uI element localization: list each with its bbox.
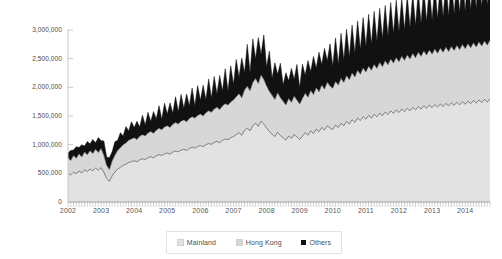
x-axis-tick-label: 2011 (350, 207, 382, 214)
x-axis-tick-label: 2003 (85, 207, 117, 214)
x-axis-tick-label: 2006 (184, 207, 216, 214)
chart-root: 3,000,0002,500,0002,000,0001,500,0001,00… (0, 0, 502, 259)
x-axis-tick-label: 2013 (416, 207, 448, 214)
x-axis-tick-label: 2009 (284, 207, 316, 214)
legend-swatch-icon (301, 240, 306, 245)
x-axis-tick-label: 2007 (217, 207, 249, 214)
legend-swatch-icon (177, 239, 184, 246)
legend-swatch-icon (236, 239, 243, 246)
y-axis-tick-label: 1,500,000 (6, 112, 62, 119)
y-axis-tick-label: 500,000 (6, 169, 62, 176)
legend-item-others[interactable]: Others (301, 239, 331, 246)
x-axis-tick-label: 2010 (317, 207, 349, 214)
legend-item-mainland[interactable]: Mainland (177, 239, 216, 246)
x-axis-tick-label: 2004 (118, 207, 150, 214)
chart-legend: MainlandHong KongOthers (166, 231, 342, 254)
x-axis-tick-label: 2014 (449, 207, 481, 214)
legend-label: Hong Kong (246, 239, 282, 246)
y-axis-tick-label: 3,000,000 (6, 26, 62, 33)
legend-label: Others (309, 239, 331, 246)
y-axis-tick-label: 1,000,000 (6, 141, 62, 148)
x-axis-tick-label: 2002 (52, 207, 84, 214)
x-axis-tick-label: 2005 (151, 207, 183, 214)
area-series-group (68, 0, 490, 202)
x-axis-tick-label: 2012 (383, 207, 415, 214)
y-axis-tick-label: 2,000,000 (6, 83, 62, 90)
chart-plot-area (0, 0, 502, 225)
x-axis-tick-label: 2008 (251, 207, 283, 214)
y-axis-tick-label: 0 (6, 198, 62, 205)
legend-item-hong-kong[interactable]: Hong Kong (236, 239, 282, 246)
legend-label: Mainland (187, 239, 216, 246)
stacked-area-chart (0, 0, 502, 225)
y-axis-tick-label: 2,500,000 (6, 55, 62, 62)
